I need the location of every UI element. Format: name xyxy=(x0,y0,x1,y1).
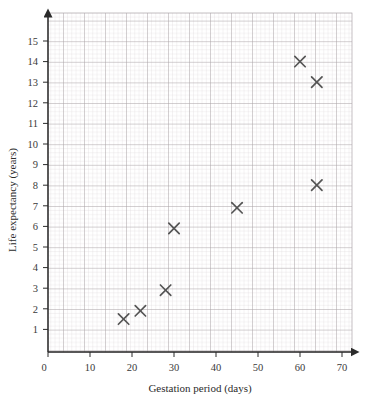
y-tick-label: 1 xyxy=(33,324,38,335)
y-axis-tick-labels: 1 2 3 4 5 6 7 8 9 10 11 12 13 14 15 xyxy=(28,36,39,335)
x-tick-label: 30 xyxy=(169,362,180,373)
x-tick-label: 50 xyxy=(253,362,264,373)
y-tick-label: 3 xyxy=(33,283,38,294)
y-axis-title: Life expectancy (years) xyxy=(6,148,19,252)
x-axis-title: Gestation period (days) xyxy=(148,382,252,395)
x-tick-label: 70 xyxy=(337,362,348,373)
x-tick-label: 0 xyxy=(41,362,46,373)
y-tick-label: 4 xyxy=(33,262,39,273)
x-tick-label: 40 xyxy=(211,362,222,373)
y-tick-label: 7 xyxy=(33,201,38,212)
y-tick-label: 14 xyxy=(28,56,39,67)
grid-area xyxy=(48,13,352,352)
y-tick-label: 11 xyxy=(28,118,38,129)
chart-canvas: 0 10 20 30 40 50 60 70 xyxy=(0,0,370,403)
y-tick-label: 15 xyxy=(28,36,39,47)
y-tick-label: 13 xyxy=(28,77,39,88)
x-tick-label: 20 xyxy=(127,362,138,373)
y-tick-label: 2 xyxy=(33,304,38,315)
scatter-chart: 0 10 20 30 40 50 60 70 xyxy=(0,0,370,403)
y-tick-label: 10 xyxy=(28,139,39,150)
x-tick-label: 60 xyxy=(295,362,306,373)
x-axis-tick-labels: 0 10 20 30 40 50 60 70 xyxy=(41,362,347,373)
x-tick-label: 10 xyxy=(85,362,96,373)
y-tick-label: 6 xyxy=(33,221,38,232)
y-tick-label: 12 xyxy=(28,98,39,109)
y-tick-label: 9 xyxy=(33,159,38,170)
y-tick-label: 8 xyxy=(33,180,38,191)
y-tick-label: 5 xyxy=(33,242,38,253)
